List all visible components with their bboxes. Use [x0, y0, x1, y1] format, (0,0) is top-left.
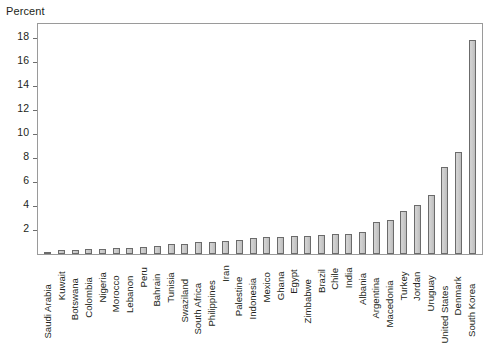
bar-slot	[287, 24, 301, 254]
x-label-slot: Albania	[356, 256, 370, 328]
bar-slot	[315, 24, 329, 254]
x-label-slot: Ghana	[274, 256, 288, 328]
y-axis-tick-mark	[33, 134, 37, 135]
x-label-slot: Morocco	[109, 256, 123, 328]
x-axis-tick-label-text: South Korea	[467, 284, 477, 337]
bar-slot	[424, 24, 438, 254]
bar-slot	[383, 24, 397, 254]
y-axis-tick-mark	[33, 62, 37, 63]
x-axis-tick-label-text: South Africa	[194, 283, 204, 335]
x-axis-tick-label-text: United States	[440, 286, 450, 343]
x-axis-tick-label-text: Bahrain	[153, 274, 163, 307]
x-axis-tick-label-text: Chile	[330, 268, 340, 290]
bar-slot	[260, 24, 274, 254]
x-axis-tick-label-text: Albania	[358, 273, 368, 305]
x-label-slot: Bahrain	[151, 256, 165, 328]
bar-slot	[219, 24, 233, 254]
y-axis-tick-mark	[33, 38, 37, 39]
x-axis-tick-label-text: Colombia	[84, 277, 94, 318]
bar-slot	[68, 24, 82, 254]
x-label-slot: Indonesia	[246, 256, 260, 328]
x-label-slot: Chile	[328, 256, 342, 328]
bar	[469, 40, 476, 254]
bar-slot	[55, 24, 69, 254]
bar-slot	[274, 24, 288, 254]
x-label-slot: Saudi Arabia	[41, 256, 55, 328]
x-label-slot: Turkey	[397, 256, 411, 328]
bar-slot	[137, 24, 151, 254]
bar-slot	[411, 24, 425, 254]
x-label-slot: Egypt	[287, 256, 301, 328]
x-axis-tick-label-text: Uruguay	[426, 275, 436, 311]
bar-slot	[397, 24, 411, 254]
x-label-slot: Denmark	[452, 256, 466, 328]
x-axis-tick-label-text: Botswana	[70, 278, 80, 320]
bar-slot	[82, 24, 96, 254]
x-axis-tick-label-text: Morocco	[111, 275, 121, 312]
x-axis-tick-label-text: Denmark	[454, 276, 464, 315]
x-axis-tick-label-text: Swaziland	[180, 279, 190, 323]
y-axis-tick-mark	[33, 206, 37, 207]
x-label-slot: United States	[438, 256, 452, 328]
x-label-slot: Uruguay	[424, 256, 438, 328]
x-axis-tick-label-text: Brazil	[317, 269, 327, 293]
x-label-slot: Colombia	[82, 256, 96, 328]
y-axis-tick-mark	[33, 230, 37, 231]
x-label-slot: Peru	[137, 256, 151, 328]
bar-slot	[178, 24, 192, 254]
x-axis-tick-label-text: India	[344, 267, 354, 288]
y-axis-tick-mark	[33, 158, 37, 159]
y-axis-title: Percent	[6, 5, 45, 17]
x-label-slot: Swaziland	[178, 256, 192, 328]
x-axis-tick-label-text: Jordan	[413, 272, 423, 301]
bar-slot	[164, 24, 178, 254]
y-axis-tick-label: 18	[17, 31, 29, 42]
bar-slot	[438, 24, 452, 254]
x-label-slot: Philippines	[205, 256, 219, 328]
x-axis-tick-label-text: Egypt	[289, 269, 299, 294]
x-axis-tick-label-text: Indonesia	[248, 278, 258, 320]
bar-slot	[465, 24, 479, 254]
bar-slot	[328, 24, 342, 254]
y-axis-tick-label: 10	[17, 127, 29, 138]
x-label-slot: Zimbabwe	[301, 256, 315, 328]
x-label-slot: India	[342, 256, 356, 328]
x-axis-tick-label: South Korea	[472, 230, 482, 283]
x-axis-tick-label-text: Turkey	[399, 271, 409, 300]
x-axis-tick-label-text: Lebanon	[125, 276, 135, 313]
x-label-slot: South Africa	[192, 256, 206, 328]
x-label-slot: Nigeria	[96, 256, 110, 328]
bar-slot	[370, 24, 384, 254]
y-axis-tick-label: 14	[17, 79, 29, 90]
y-axis-tick-label: 4	[23, 199, 29, 210]
y-axis-tick-label: 12	[17, 103, 29, 114]
x-axis-labels: Saudi ArabiaKuwaitBotswanaColombiaNigeri…	[38, 256, 482, 328]
bar-slot	[301, 24, 315, 254]
x-axis-tick-label-text: Tunisia	[166, 272, 176, 303]
bar-slot	[123, 24, 137, 254]
bar-slot	[192, 24, 206, 254]
x-label-slot: Argentina	[370, 256, 384, 328]
y-axis-tick-label: 2	[23, 223, 29, 234]
x-axis-tick-label-text: Peru	[139, 267, 149, 287]
x-axis-tick-label-text: Palestine	[235, 277, 245, 316]
bar-slot	[96, 24, 110, 254]
y-axis-tick-mark	[33, 86, 37, 87]
y-axis-tick-mark	[33, 182, 37, 183]
x-label-slot: Botswana	[68, 256, 82, 328]
bar-slot	[356, 24, 370, 254]
x-label-slot: Brazil	[315, 256, 329, 328]
x-label-slot: Lebanon	[123, 256, 137, 328]
bar-slot	[41, 24, 55, 254]
x-label-slot: Mexico	[260, 256, 274, 328]
x-label-slot: Palestine	[233, 256, 247, 328]
x-label-slot: Kuwait	[55, 256, 69, 328]
x-axis-tick-label-text: Philippines	[207, 280, 217, 326]
x-axis-tick-label-text: Zimbabwe	[303, 279, 313, 323]
x-label-slot: Jordan	[411, 256, 425, 328]
bar-slot	[151, 24, 165, 254]
bar-slot	[233, 24, 247, 254]
x-label-slot: South Korea	[465, 256, 479, 328]
y-axis-tick-mark	[33, 110, 37, 111]
